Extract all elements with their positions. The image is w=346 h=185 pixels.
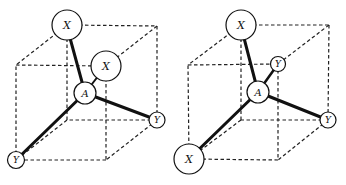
svg-text:X: X [236,19,246,32]
diagram-canvas: X X A Y Y [0,0,346,185]
atom-a: A [247,81,269,103]
atom-y: Y [149,112,165,128]
svg-text:A: A [253,87,261,98]
svg-text:X: X [101,60,111,73]
svg-text:Y: Y [13,155,20,165]
atom-x: X [174,144,204,174]
svg-text:Y: Y [154,115,161,125]
svg-text:Y: Y [325,115,332,125]
atom-x: X [52,10,82,40]
atom-x: X [91,51,121,81]
atom-y: Y [271,57,286,72]
svg-text:A: A [80,88,88,99]
right-atoms: X Y A Y X [174,10,336,174]
atom-y: Y [320,112,336,128]
svg-text:X: X [62,19,72,32]
svg-text:Y: Y [275,59,282,69]
atom-y: Y [8,152,25,169]
atom-a: A [74,82,96,104]
svg-text:X: X [184,153,194,166]
atom-x: X [226,10,256,40]
